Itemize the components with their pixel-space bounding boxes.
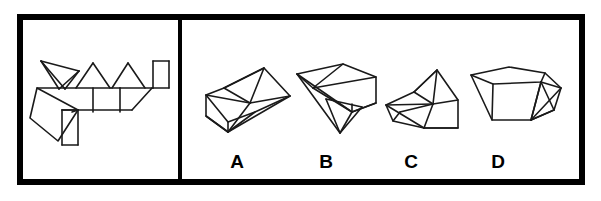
solid-edge — [386, 104, 433, 105]
option-label-c: C — [404, 151, 418, 172]
figure-canvas: ABCD — [0, 0, 601, 201]
solid-edge — [492, 84, 493, 120]
option-label-b: B — [319, 151, 333, 172]
figure-background — [0, 0, 601, 201]
spatial-reasoning-figure: ABCD — [0, 0, 601, 201]
option-label-a: A — [230, 151, 244, 172]
option-label-d: D — [491, 151, 505, 172]
